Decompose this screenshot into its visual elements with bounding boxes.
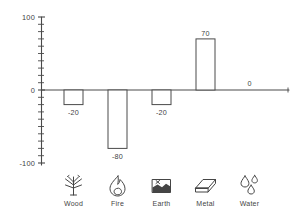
- bar-metal[interactable]: [196, 39, 215, 90]
- bar-value-label-metal: 70: [201, 29, 209, 38]
- y-axis-label-top: 100: [22, 13, 35, 22]
- bar-value-label-earth: -20: [156, 108, 167, 117]
- bar-value-label-wood: -20: [68, 108, 79, 117]
- y-axis-label-zero: 0: [31, 86, 35, 95]
- bar-chart-figure: 100 0 -100 -20 -80 -20 70 0: [0, 0, 299, 219]
- category-label-metal: Metal: [196, 200, 215, 207]
- category-icon-row: Wood Fire Earth Metal: [64, 176, 260, 208]
- category-label-earth: Earth: [153, 200, 171, 207]
- y-axis-label-bottom: -100: [19, 159, 35, 168]
- tree-icon: [66, 176, 82, 196]
- ingot-icon: [196, 180, 216, 193]
- bar-value-label-water: 0: [247, 79, 251, 88]
- bar-value-label-fire: -80: [112, 152, 123, 161]
- bar-wood[interactable]: [64, 90, 83, 105]
- field-icon: [153, 180, 171, 193]
- chart-canvas: 100 0 -100 -20 -80 -20 70 0: [0, 0, 299, 219]
- bar-series: -20 -80 -20 70 0: [64, 29, 252, 161]
- category-label-wood: Wood: [64, 200, 83, 207]
- category-label-water: Water: [240, 200, 260, 207]
- bar-fire[interactable]: [108, 90, 127, 148]
- flame-icon: [110, 176, 125, 196]
- category-label-fire: Fire: [111, 200, 124, 207]
- bar-earth[interactable]: [152, 90, 171, 105]
- droplet-icon: [241, 176, 257, 195]
